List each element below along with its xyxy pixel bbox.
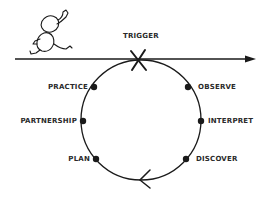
dot-discover [183,156,189,162]
label-interpret: INTERPRET [208,117,253,125]
stage-dots [80,84,204,162]
dot-partnership [80,118,86,124]
dot-practice [91,84,97,90]
cycle-circle [81,60,201,180]
label-discover: DISCOVER [196,155,238,163]
label-practice: PRACTICE [48,83,88,91]
dot-observe [185,84,191,90]
label-trigger: TRIGGER [123,32,159,40]
label-observe: OBSERVE [198,83,236,91]
running-figure-icon [30,10,72,54]
dot-interpret [198,118,204,124]
label-plan: PLAN [68,155,90,163]
dot-plan [93,156,99,162]
label-partnership: PARTNERSHIP [20,117,77,125]
